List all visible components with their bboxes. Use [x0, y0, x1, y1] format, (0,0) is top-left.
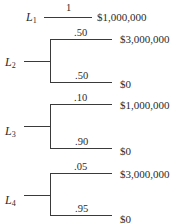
branch-probability: .95	[75, 203, 88, 214]
branch-payoff: $3,000,000	[120, 168, 170, 180]
branch-probability: .50	[74, 27, 87, 38]
stem-line	[24, 61, 50, 62]
branch-payoff: $0	[120, 78, 131, 90]
branch-probability: .50	[75, 70, 88, 81]
fork-line	[50, 104, 51, 149]
branch-line	[50, 39, 112, 40]
stem-line	[24, 126, 50, 127]
branch-line	[50, 82, 112, 83]
branch-probability: .05	[74, 161, 87, 172]
branch-payoff: $1,000,000	[97, 11, 147, 23]
lottery-label-l1: L1	[26, 11, 37, 27]
fork-line	[50, 173, 51, 216]
branch-line	[50, 148, 112, 149]
branch-line	[50, 215, 112, 216]
lottery-label-l4: L4	[5, 194, 16, 210]
branch-payoff: $0	[120, 213, 131, 223]
stem-line	[24, 195, 50, 196]
lottery-label-l3: L3	[5, 125, 16, 141]
branch-probability: .10	[74, 92, 87, 103]
lottery-label-l2: L2	[5, 56, 16, 72]
branch-payoff: $1,000,000	[120, 99, 170, 111]
branch-payoff: $0	[120, 145, 131, 157]
branch-line	[50, 173, 112, 174]
fork-line	[50, 39, 51, 83]
branch-probability: 1	[66, 2, 71, 13]
branch-payoff: $3,000,000	[120, 33, 170, 45]
branch-probability: .90	[75, 136, 88, 147]
branch-line	[50, 104, 112, 105]
branch-line	[44, 17, 92, 18]
